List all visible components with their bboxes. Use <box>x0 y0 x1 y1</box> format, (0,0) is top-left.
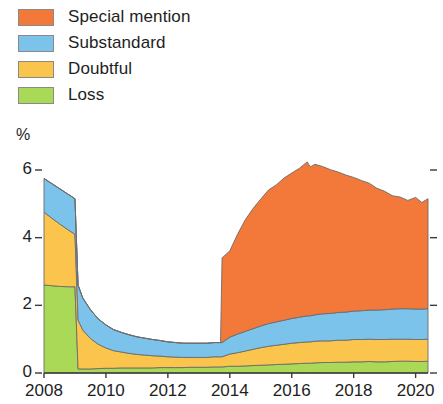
stacked-area-chart: Special mention Substandard Doubtful Los… <box>0 0 443 404</box>
plot-area <box>0 0 443 404</box>
